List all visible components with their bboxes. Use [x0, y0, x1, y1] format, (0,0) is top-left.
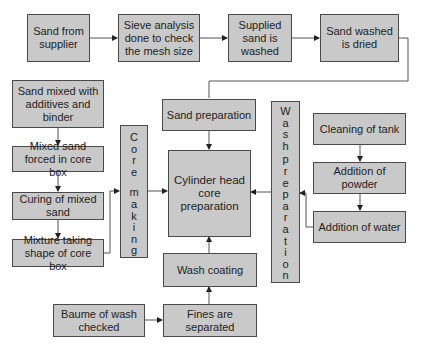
- box-sand-washed-dried: Sand washed is dried: [320, 14, 399, 62]
- box-wash-coating: Wash coating: [163, 253, 257, 287]
- box-addition-of-powder: Addition of powder: [313, 162, 406, 194]
- label: Sand preparation: [167, 109, 251, 122]
- label: Supplied sand is washed: [232, 19, 288, 58]
- label: Baume of wash checked: [57, 308, 141, 334]
- label: Curing of mixed sand: [16, 193, 100, 219]
- box-fines-separated: Fines are separated: [163, 304, 257, 337]
- letter: e: [131, 167, 137, 179]
- label: Fines are separated: [167, 308, 253, 334]
- letter: a: [282, 224, 288, 236]
- label: Cylinder head core preparation: [172, 174, 247, 213]
- label: Sand mixed with additives and binder: [16, 85, 100, 124]
- letter: C: [130, 132, 138, 144]
- arrow-mixture-to-core-making: [104, 191, 119, 253]
- box-sieve-analysis: Sieve analysis done to check the mesh si…: [118, 14, 200, 62]
- letter: n: [282, 270, 288, 282]
- letter: r: [284, 166, 288, 178]
- box-mixed-sand-forced: Mixed sand forced in core box: [12, 146, 104, 172]
- box-cleaning-of-tank: Cleaning of tank: [313, 113, 406, 145]
- letter: h: [282, 141, 288, 153]
- box-sand-preparation: Sand preparation: [162, 99, 256, 131]
- box-mixture-shape: Mixture taking shape of core box: [12, 239, 104, 267]
- box-curing: Curing of mixed sand: [12, 192, 104, 220]
- label: Wash coating: [177, 264, 243, 277]
- letter: a: [131, 199, 137, 211]
- arrow-water-to-wash-prep: [300, 193, 313, 227]
- box-wash-preparation: W a s h p r e p a r a t i o n: [271, 101, 300, 283]
- label: Sand from supplier: [31, 25, 86, 51]
- box-cylinder-head-core-preparation: Cylinder head core preparation: [168, 150, 251, 237]
- box-baume-checked: Baume of wash checked: [53, 304, 145, 337]
- label: Mixture taking shape of core box: [16, 234, 100, 273]
- letter: g: [131, 245, 137, 257]
- label: Cleaning of tank: [320, 123, 400, 136]
- letter: W: [280, 106, 290, 118]
- label: Sieve analysis done to check the mesh si…: [122, 19, 196, 58]
- box-sand-mixed: Sand mixed with additives and binder: [12, 80, 104, 128]
- label: Mixed sand forced in core box: [16, 140, 100, 179]
- label: Addition of water: [319, 221, 401, 234]
- box-core-making: C o r e m a k i n g: [120, 125, 148, 258]
- box-sand-from-supplier: Sand from supplier: [27, 14, 90, 62]
- box-addition-of-water: Addition of water: [313, 211, 406, 243]
- label: Sand washed is dried: [324, 25, 395, 51]
- box-supplied-sand-washed: Supplied sand is washed: [228, 14, 292, 62]
- label: Addition of powder: [317, 165, 402, 191]
